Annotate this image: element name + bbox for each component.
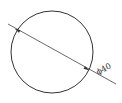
circle-outline (11, 11, 93, 93)
diameter-label: ϕ40 (95, 61, 113, 76)
diagram-canvas: ϕ40 (0, 0, 122, 103)
